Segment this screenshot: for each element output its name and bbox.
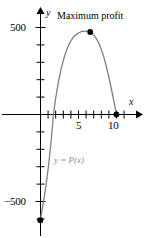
maximum-profit-annotation: Maximum profit (57, 11, 123, 21)
y-axis-label: y (46, 8, 50, 18)
x-axis-label: x (129, 97, 133, 107)
graph-figure: 500 −500 5 10 y x Maximum profit y = P(x… (0, 0, 148, 238)
curve-function-label: y = P(x) (54, 156, 84, 165)
x-axis (2, 111, 143, 119)
x-tick-label-10: 10 (108, 120, 119, 131)
y-tick-label-negative-500: −500 (4, 196, 26, 207)
y-tick-label-500: 500 (10, 22, 26, 33)
x-tick-label-5: 5 (76, 120, 81, 131)
y-intercept-point (37, 217, 43, 223)
maximum-profit-point (87, 29, 93, 35)
x-intercept-point (114, 112, 120, 118)
